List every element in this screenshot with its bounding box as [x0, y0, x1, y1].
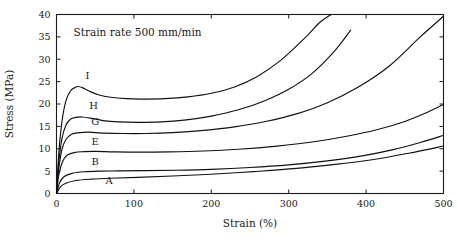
x-tick-label: 400 [357, 198, 375, 209]
curve-H [57, 30, 351, 193]
y-tick-label: 35 [38, 31, 50, 42]
y-tick-label: 30 [38, 54, 50, 65]
axis-ticks [57, 15, 444, 194]
y-tick-labels: 0510152025303540 [38, 9, 50, 199]
figure-container: 0100200300400500 0510152025303540 IHGEBA… [0, 0, 460, 244]
y-tick-label: 15 [38, 121, 50, 132]
x-tick-label: 0 [53, 198, 59, 209]
curve-labels: IHGEBA [85, 70, 113, 186]
curve-E [57, 104, 444, 193]
y-tick-label: 10 [38, 143, 50, 154]
stress-strain-chart: 0100200300400500 0510152025303540 IHGEBA… [0, 0, 460, 244]
curve-A [57, 146, 444, 193]
curve-label-B: B [92, 156, 99, 167]
y-tick-label: 0 [44, 188, 50, 199]
y-tick-label: 20 [38, 98, 50, 109]
curve-group [57, 15, 444, 194]
x-tick-label: 300 [280, 198, 298, 209]
curve-G [57, 16, 444, 193]
curve-B [57, 135, 444, 193]
annotation-strain-rate: Strain rate 500 mm/min [74, 26, 202, 38]
curve-label-H: H [89, 100, 98, 111]
y-tick-label: 40 [38, 9, 50, 20]
y-tick-label: 5 [44, 166, 50, 177]
y-axis-title: Stress (MPa) [3, 70, 15, 139]
x-tick-label: 500 [434, 198, 452, 209]
plot-frame [57, 15, 444, 194]
curve-label-A: A [105, 175, 114, 186]
curve-label-G: G [91, 116, 99, 127]
x-tick-label: 200 [202, 198, 220, 209]
x-tick-label: 100 [125, 198, 143, 209]
y-tick-label: 25 [38, 76, 50, 87]
curve-label-I: I [85, 70, 89, 81]
x-axis-title: Strain (%) [223, 217, 277, 229]
curve-label-E: E [92, 136, 99, 147]
x-tick-labels: 0100200300400500 [53, 198, 452, 209]
